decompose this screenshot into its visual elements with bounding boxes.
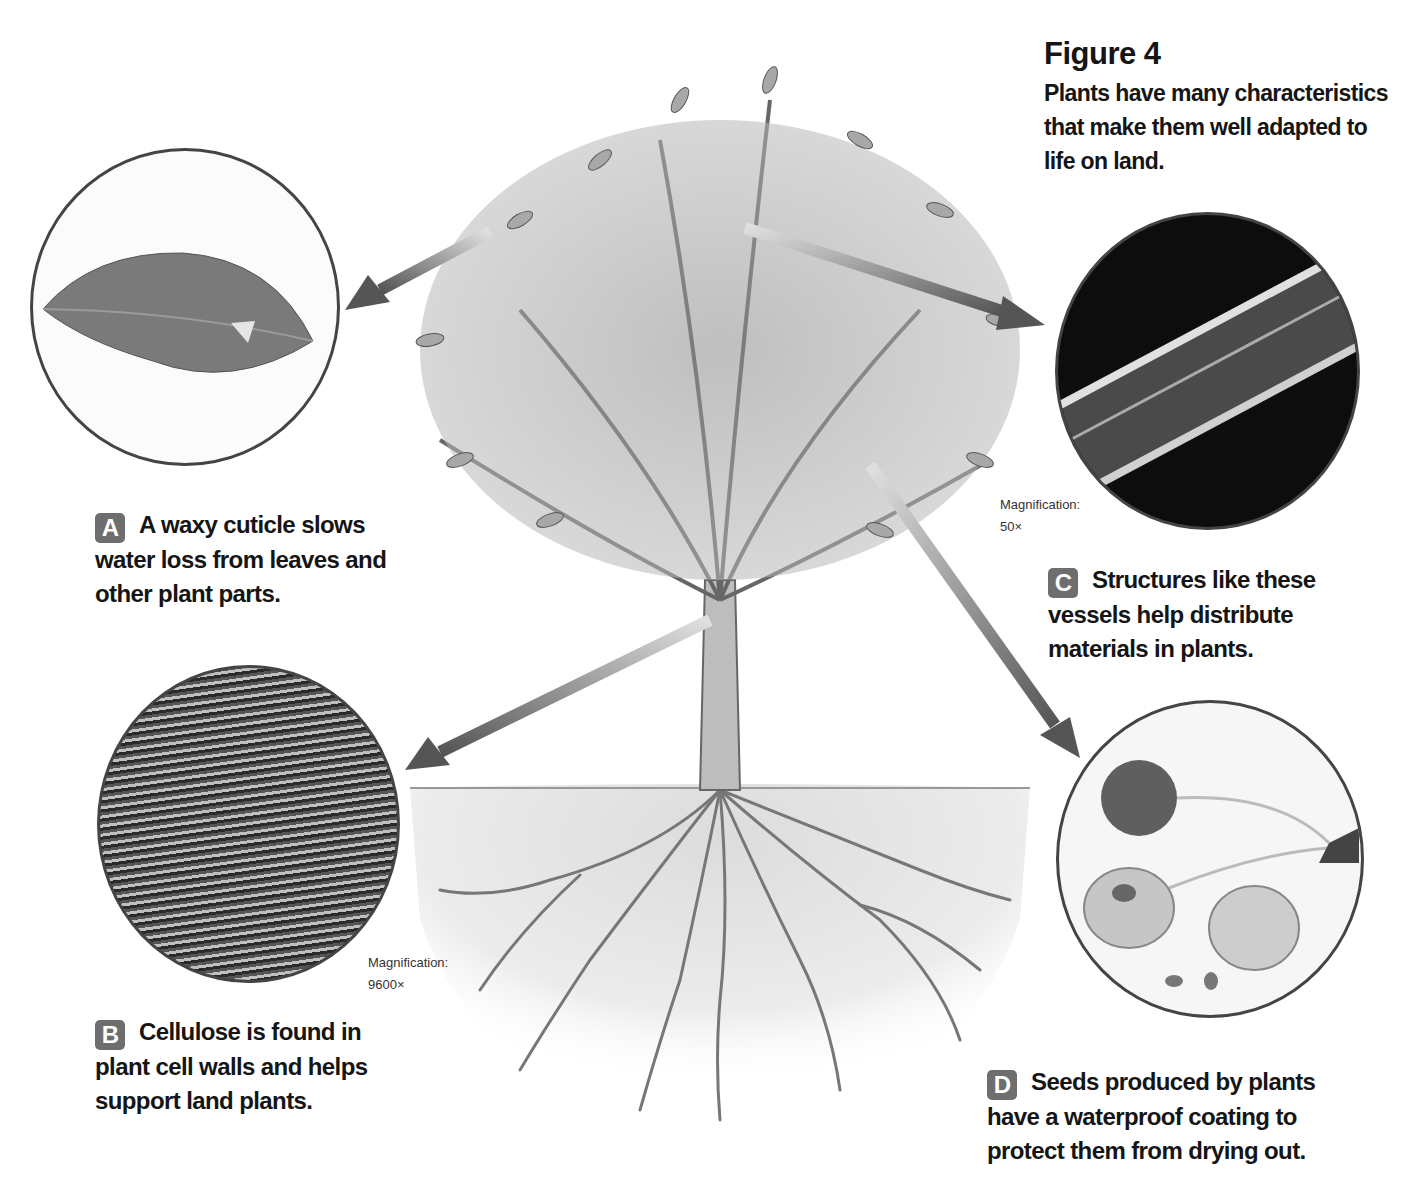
badge-d: D <box>987 1070 1017 1100</box>
callout-d-text: Seeds produced by plants have a waterpro… <box>987 1068 1315 1164</box>
callout-b: BCellulose is found in plant cell walls … <box>95 1015 405 1118</box>
leaf-photo <box>30 148 340 466</box>
cherry-seeds-photo <box>1056 700 1364 1018</box>
badge-b: B <box>95 1020 125 1050</box>
arrow-c <box>745 228 1045 330</box>
callout-c-text: Structures like these vessels help distr… <box>1048 566 1316 662</box>
badge-a: A <box>95 513 125 543</box>
magnification-c: Magnification: 50× <box>1000 494 1080 538</box>
arrow-b <box>405 620 710 770</box>
badge-c: C <box>1048 568 1078 598</box>
magnification-b: Magnification: 9600× <box>368 952 448 996</box>
callout-c: CStructures like these vessels help dist… <box>1048 563 1348 666</box>
callout-a-text: A waxy cuticle slows water loss from lea… <box>95 511 386 607</box>
callout-d: DSeeds produced by plants have a waterpr… <box>987 1065 1347 1168</box>
arrow-a <box>345 232 490 310</box>
vessel-micrograph <box>1055 212 1360 530</box>
callout-b-text: Cellulose is found in plant cell walls a… <box>95 1018 367 1114</box>
cellulose-micrograph <box>97 665 400 983</box>
callout-a: AA waxy cuticle slows water loss from le… <box>95 508 395 611</box>
